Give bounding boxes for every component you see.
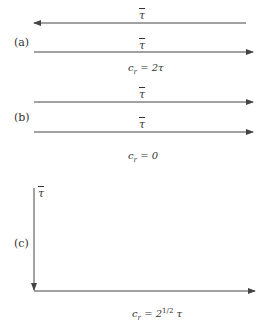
result-equation-b: cr = 0 bbox=[128, 150, 158, 164]
tau-label-a2: τ bbox=[139, 40, 145, 51]
tau-label-b1: τ bbox=[139, 89, 145, 100]
tau-label-c1: τ bbox=[38, 188, 44, 199]
vector-diagram bbox=[0, 0, 268, 333]
tau-label-b2: τ bbox=[139, 119, 145, 130]
panel-label-b: (b) bbox=[14, 112, 30, 123]
panel-label-a: (a) bbox=[14, 37, 29, 48]
tau-label-a1: τ bbox=[139, 10, 145, 21]
panel-label-c: (c) bbox=[14, 238, 29, 249]
result-equation-c: cr = 21/2 τ bbox=[132, 307, 182, 322]
result-equation-a: cr = 2τ bbox=[128, 62, 164, 76]
